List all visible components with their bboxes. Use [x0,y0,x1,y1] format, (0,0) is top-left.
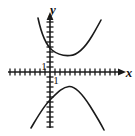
tick-label-x-one: 1 [41,60,47,72]
y-axis-label: y [48,2,56,17]
tick-label-y-one: 1 [53,74,59,86]
x-axis-label: x [125,65,133,80]
graph-figure: y x 1 1 [0,0,135,136]
coordinate-plane-graph: y x 1 1 [0,0,135,136]
lower-branch-curve [31,86,104,130]
